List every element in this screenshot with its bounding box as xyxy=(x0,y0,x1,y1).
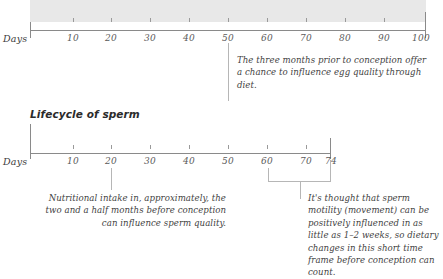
sperm-tick-label-50: 50 xyxy=(222,156,234,166)
sperm-note-right: It's thought that sperm motility (moveme… xyxy=(308,192,440,279)
egg-tick-label-90: 90 xyxy=(378,33,390,43)
sperm-tick-label-20: 20 xyxy=(105,156,117,166)
sperm-axis-tick xyxy=(267,145,268,149)
sperm-axis-start-cap xyxy=(30,124,31,159)
sperm-tick-label-70: 70 xyxy=(300,156,312,166)
egg-tick-label-10: 10 xyxy=(67,33,79,43)
sperm-axis-line xyxy=(30,153,330,154)
egg-axis-tick xyxy=(228,18,229,22)
sperm-axis-tick xyxy=(228,145,229,149)
sperm-tick-label-30: 30 xyxy=(144,156,156,166)
sperm-right-note-connector xyxy=(300,181,301,199)
egg-axis-tick xyxy=(306,18,307,22)
egg-note: The three months prior to conception off… xyxy=(237,54,427,91)
sperm-axis-tick xyxy=(111,145,112,149)
sperm-tick-label-10: 10 xyxy=(67,156,79,166)
egg-axis-tick xyxy=(189,18,190,22)
sperm-tick-label-74: 74 xyxy=(325,156,337,166)
sperm-axis-tick xyxy=(150,145,151,149)
egg-axis-start-cap xyxy=(30,22,31,38)
sperm-right-bracket-start xyxy=(268,168,269,182)
sperm-tick-label-60: 60 xyxy=(261,156,273,166)
egg-tick-label-50: 50 xyxy=(222,33,234,43)
egg-axis-tick xyxy=(345,18,346,22)
sperm-axis-tick xyxy=(73,145,74,149)
egg-axis-tick xyxy=(73,18,74,22)
egg-tick-label-20: 20 xyxy=(105,33,117,43)
sperm-section-title: Lifecycle of sperm xyxy=(30,108,140,120)
egg-tick-label-40: 40 xyxy=(183,33,195,43)
sperm-axis-days-label: Days xyxy=(3,156,27,167)
sperm-right-bracket-end xyxy=(330,160,331,182)
egg-tick-label-30: 30 xyxy=(144,33,156,43)
sperm-axis-tick xyxy=(189,145,190,149)
sperm-left-note-connector xyxy=(111,168,112,190)
egg-axis-days-label: Days xyxy=(3,33,27,44)
egg-axis-tick xyxy=(111,18,112,22)
sperm-axis-tick xyxy=(306,145,307,149)
egg-axis-tick xyxy=(150,18,151,22)
sperm-tick-label-40: 40 xyxy=(183,156,195,166)
egg-axis-tick xyxy=(267,18,268,22)
egg-tick-label-60: 60 xyxy=(261,33,273,43)
egg-tick-label-80: 80 xyxy=(339,33,351,43)
sperm-note-left: Nutritional intake in, approximately, th… xyxy=(45,192,226,229)
egg-tick-label-100: 100 xyxy=(412,33,430,43)
egg-axis-tick xyxy=(384,18,385,22)
egg-tick-label-70: 70 xyxy=(300,33,312,43)
egg-note-connector xyxy=(228,43,229,101)
egg-axis-line xyxy=(30,30,426,31)
